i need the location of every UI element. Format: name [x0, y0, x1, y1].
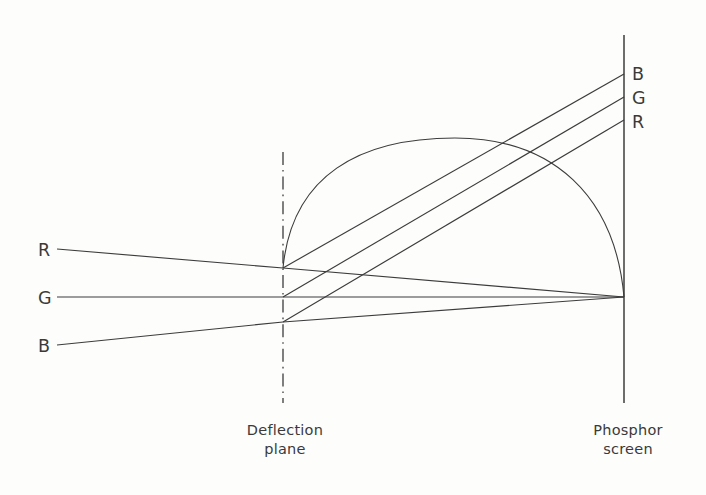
caption-deflection-plane: Deflection plane [205, 421, 365, 459]
incoming-ray-b [57, 322, 283, 345]
deflected-ray-r [283, 120, 624, 322]
undeflected-ray-r [283, 268, 624, 297]
deflected-ray-b [283, 74, 624, 268]
incoming-ray-r [57, 249, 283, 268]
figure-root: R G B B G R Deflection plane Phosphor sc… [0, 0, 706, 495]
beam-label-r-left: R [38, 240, 50, 260]
beam-label-b-right: B [632, 64, 644, 84]
beam-label-b-left: B [38, 336, 50, 356]
beam-label-g-left: G [38, 288, 52, 308]
beam-label-g-right: G [632, 88, 646, 108]
caption-phosphor-screen: Phosphor screen [553, 421, 703, 459]
undeflected-ray-b [283, 297, 624, 322]
beam-label-r-right: R [632, 112, 644, 132]
deflected-ray-g [283, 97, 624, 297]
deflection-locus-arc [283, 138, 624, 297]
